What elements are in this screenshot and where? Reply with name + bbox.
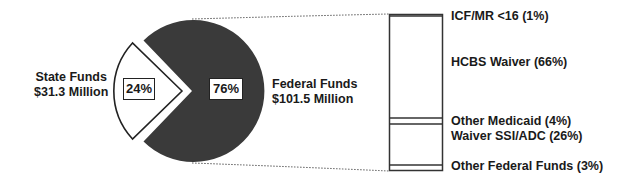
- stacked-bar: [390, 15, 443, 171]
- segment-label-other-medicaid: Other Medicaid (4%): [451, 114, 571, 129]
- federal-funds-label: Federal Funds $101.5 Million: [272, 77, 357, 107]
- state-pct-box: 24%: [123, 78, 155, 100]
- state-funds-amount: $31.3 Million: [34, 85, 108, 100]
- state-funds-name: State Funds: [34, 70, 108, 85]
- connector-top: [192, 14, 389, 19]
- federal-funds-amount: $101.5 Million: [272, 92, 357, 107]
- federal-funds-name: Federal Funds: [272, 77, 357, 92]
- connector-bottom: [192, 163, 389, 171]
- federal-pct-box: 76%: [209, 78, 243, 100]
- segment-label-other-federal: Other Federal Funds (3%): [451, 159, 603, 174]
- segment-label-waiver-ssi: Waiver SSI/ADC (26%): [451, 129, 583, 144]
- state-funds-label: State Funds $31.3 Million: [34, 70, 108, 100]
- segment-label-hcbs: HCBS Waiver (66%): [451, 55, 567, 70]
- segment-label-icfmr: ICF/MR <16 (1%): [451, 9, 549, 24]
